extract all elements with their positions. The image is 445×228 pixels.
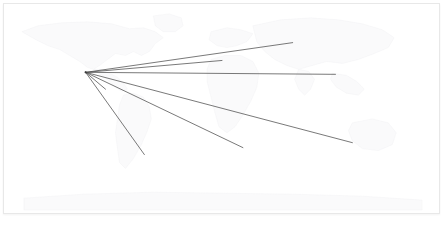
hub-node[interactable] <box>85 71 87 73</box>
screenshot-root <box>0 0 445 228</box>
map-canvas[interactable] <box>4 4 439 213</box>
map-frame[interactable] <box>3 3 440 214</box>
hub-node-layer[interactable] <box>85 71 87 73</box>
